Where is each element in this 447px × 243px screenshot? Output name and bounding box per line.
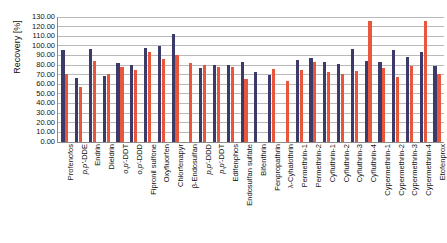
bar-series-2	[217, 67, 220, 141]
bar-group	[210, 17, 224, 142]
bar-series-1	[309, 58, 312, 142]
bar-series-2	[272, 69, 275, 141]
bar-series-2	[437, 74, 440, 141]
bar-series-2	[396, 77, 399, 141]
bar-series-1	[323, 62, 326, 142]
bar-series-1	[61, 50, 64, 141]
bar-series-2	[424, 21, 427, 141]
bar-group	[141, 17, 155, 142]
bar-series-1	[75, 78, 78, 141]
bar-series-2	[231, 67, 234, 142]
bar-group	[320, 17, 334, 142]
x-tick-cell: p,p'-DDT	[209, 144, 223, 243]
bar-series-1	[199, 68, 202, 141]
bar-group	[86, 17, 100, 142]
bar-group	[127, 17, 141, 142]
y-tick-label: 70.00	[36, 71, 55, 79]
bar-series-1	[365, 61, 368, 142]
bar-group	[361, 17, 375, 142]
y-tick-label: 60.00	[36, 80, 55, 88]
bar-series-2	[162, 59, 165, 142]
bar-group	[182, 17, 196, 142]
x-tick-cell: Cypermethrin-3	[402, 144, 416, 243]
y-tick-label: 10.00	[36, 128, 55, 136]
x-tick-cell: p,p'-DDD	[195, 144, 209, 243]
y-tick-label: 0.00	[40, 138, 55, 146]
x-tick-cell: Edifenphos	[222, 144, 236, 243]
bar-series-1	[103, 76, 106, 141]
bar-series-1	[158, 46, 161, 141]
bar-group	[265, 17, 279, 142]
bar-group	[416, 17, 430, 142]
bar-group	[375, 17, 389, 142]
bar-series-1	[268, 75, 271, 141]
bar-series-2	[327, 72, 330, 141]
bar-group	[223, 17, 237, 142]
y-tick-label: 40.00	[36, 99, 55, 107]
bar-series-2	[313, 62, 316, 142]
bar-series-1	[241, 62, 244, 142]
bar-series-2	[175, 55, 178, 142]
x-tick-cell: Cypermethrin-1	[374, 144, 388, 243]
bar-group	[237, 17, 251, 142]
x-tick-cell: Cypermethrin-4	[415, 144, 429, 243]
bar-series-2	[203, 65, 206, 142]
bar-series-1	[420, 52, 423, 141]
bar-groups	[58, 17, 444, 142]
bar-group	[279, 17, 293, 142]
bar-group	[196, 17, 210, 142]
bar-group	[334, 17, 348, 142]
y-tick-label: 100.00	[32, 42, 55, 50]
bar-series-2	[107, 74, 110, 141]
bar-series-1	[130, 65, 133, 142]
bar-group	[403, 17, 417, 142]
x-tick-cell: Cyfluthrin-4	[360, 144, 374, 243]
bar-series-1	[213, 65, 216, 142]
bar-series-2	[355, 71, 358, 141]
bar-series-1	[406, 57, 409, 142]
x-tick-cell: Profenofos	[57, 144, 71, 243]
bar-series-2	[300, 70, 303, 141]
y-tick-label: 90.00	[36, 51, 55, 59]
x-tick-cell: Oxyfluorfen	[153, 144, 167, 243]
bar-series-2	[244, 79, 247, 142]
bar-group	[389, 17, 403, 142]
bar-group	[306, 17, 320, 142]
bar-series-2	[410, 66, 413, 142]
x-tick-cell: Cyfluthrin-2	[333, 144, 347, 243]
x-tick-cell: Fipronil sulfone	[140, 144, 154, 243]
bar-group	[347, 17, 361, 142]
bar-series-2	[65, 74, 68, 141]
x-tick-cell: Cyfluthrin-1	[319, 144, 333, 243]
bar-group	[292, 17, 306, 142]
bar-series-2	[341, 74, 344, 141]
bar-group	[72, 17, 86, 142]
plot-area	[57, 17, 444, 143]
y-tick-label: 20.00	[36, 119, 55, 127]
bar-series-2	[189, 63, 192, 142]
bar-series-1	[296, 60, 299, 142]
x-tick-label: Etofenprox	[439, 144, 447, 180]
x-tick-cell: Etofenprox	[429, 144, 443, 243]
x-tick-cell: Permethrin-1	[291, 144, 305, 243]
bar-group	[168, 17, 182, 142]
x-tick-cell: Endosulfan sulfate	[236, 144, 250, 243]
y-tick-label: 30.00	[36, 109, 55, 117]
bar-group	[99, 17, 113, 142]
bar-series-2	[368, 21, 371, 141]
bar-series-1	[227, 65, 230, 142]
bar-series-1	[172, 34, 175, 142]
bar-series-2	[134, 70, 137, 141]
y-axis-tick-labels: 130.00120.00110.00100.0090.0080.0070.006…	[20, 0, 55, 145]
x-tick-cell: Fenpropathrin	[264, 144, 278, 243]
bar-group	[251, 17, 265, 142]
bar-series-2	[148, 52, 151, 141]
x-tick-cell: o,p'-DDT	[112, 144, 126, 243]
x-tick-cell: o,p'-DDD	[126, 144, 140, 243]
bar-series-1	[433, 66, 436, 142]
bar-series-1	[337, 64, 340, 142]
bar-series-2	[286, 81, 289, 142]
bar-series-2	[382, 68, 385, 141]
bar-series-1	[144, 48, 147, 141]
bar-group	[113, 17, 127, 142]
